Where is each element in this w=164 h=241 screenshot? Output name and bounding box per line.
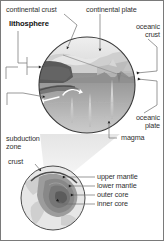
label-magma: magma: [121, 134, 144, 142]
label-outer-core: outer core: [97, 191, 128, 199]
label-continental-crust: continental crust: [6, 6, 57, 14]
label-continental-plate: continental plate: [86, 6, 137, 14]
label-crust: crust: [8, 158, 23, 166]
label-upper-mantle: upper mantle: [97, 173, 138, 181]
label-oceanic-crust-line2: crust: [105, 31, 160, 39]
label-lithosphere: lithosphere: [9, 20, 49, 28]
geology-diagram-figure: continental crust continental plate lith…: [0, 0, 164, 241]
earth-globe-cutaway: [21, 166, 85, 230]
leader-subduction: [7, 93, 45, 105]
label-subduction-zone-line2: zone: [6, 143, 21, 151]
label-oceanic-plate-line2: plate: [105, 122, 160, 130]
label-inner-core: inner core: [97, 200, 128, 208]
label-lower-mantle: lower mantle: [97, 182, 137, 190]
lithosphere-bracket: [6, 31, 39, 79]
